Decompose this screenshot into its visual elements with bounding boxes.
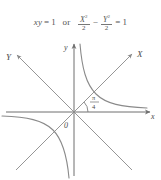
- y-axis-label: y: [63, 43, 68, 52]
- equation-equals-2: =: [113, 17, 122, 27]
- rotated-X-axis-label: X: [136, 49, 143, 59]
- math-figure: xy=1 or X22−Y22=1 π 4: [0, 0, 161, 180]
- x-axis-label: x: [150, 112, 155, 121]
- equation-minus: −: [91, 17, 100, 27]
- equation-term2-fraction: Y22: [101, 14, 112, 33]
- angle-denominator: 4: [92, 103, 96, 110]
- equation-term2-denominator: 2: [101, 25, 112, 32]
- equation-term1-denominator: 2: [78, 25, 90, 32]
- hyperbola-branch-lower-left: [2, 116, 69, 178]
- rotated-Y-axis-label: Y: [6, 52, 12, 62]
- equation-term1-fraction: X22: [78, 14, 90, 33]
- angle-numerator: π: [92, 94, 96, 101]
- equation-caption: xy=1 or X22−Y22=1: [0, 14, 161, 33]
- equation-rhs: 1: [123, 17, 128, 27]
- angle-label: π 4: [90, 94, 99, 110]
- equation-equals: =: [42, 17, 51, 27]
- angle-arc: [84, 102, 88, 112]
- equation-lhs: xy: [34, 17, 42, 27]
- equation-term2-numerator: Y2: [101, 14, 112, 24]
- hyperbola-plot: π 4 x y X Y 0: [0, 38, 161, 180]
- equation-term1-numerator: X2: [78, 14, 90, 24]
- origin-label: 0: [64, 121, 68, 130]
